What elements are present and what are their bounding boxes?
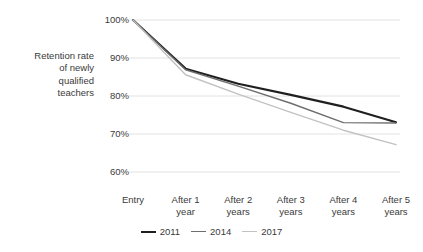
y-axis-title: Retention rate of newly qualified teache… <box>8 50 94 99</box>
legend-item-2011[interactable]: 2011 <box>141 226 180 237</box>
y-axis-tick-label: 70% <box>95 128 129 139</box>
legend-line-swatch-icon <box>141 231 156 233</box>
legend-item-label: 2017 <box>261 226 282 237</box>
x-axis-tick-label: After 5 years <box>361 194 423 217</box>
legend-item-2014[interactable]: 2014 <box>191 226 231 237</box>
y-axis-tick-label: 60% <box>95 166 129 177</box>
legend-item-label: 2011 <box>160 226 180 237</box>
legend-line-swatch-icon <box>242 231 257 232</box>
series-line-2017 <box>133 20 396 145</box>
retention-rate-line-chart: Retention rate of newly qualified teache… <box>0 0 423 252</box>
legend-item-label: 2014 <box>210 226 231 237</box>
series-line-2014 <box>133 20 396 123</box>
y-axis-tick-label: 90% <box>95 52 129 63</box>
y-axis-tick-label: 100% <box>95 14 129 25</box>
chart-legend: 201120142017 <box>0 226 423 237</box>
legend-item-2017[interactable]: 2017 <box>242 226 282 237</box>
series-line-2011 <box>133 20 396 122</box>
y-axis-tick-label: 80% <box>95 90 129 101</box>
legend-line-swatch-icon <box>191 231 206 232</box>
